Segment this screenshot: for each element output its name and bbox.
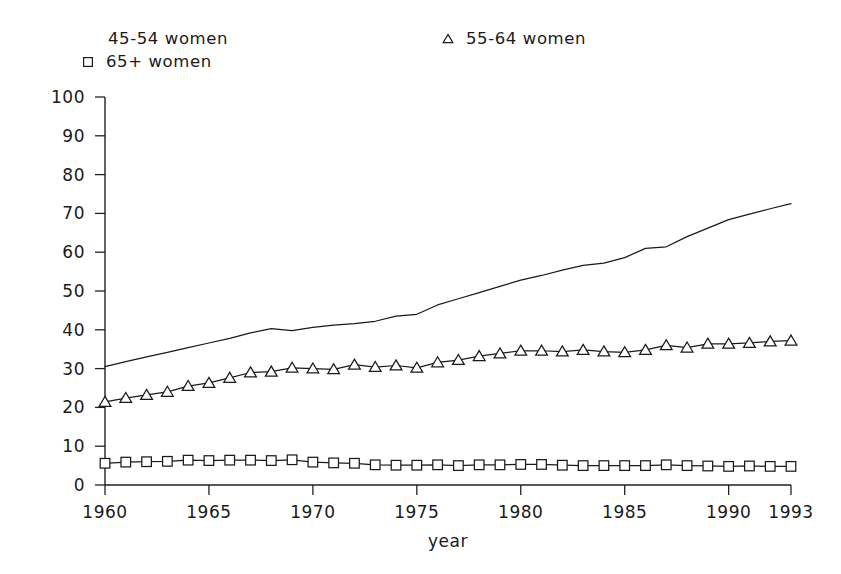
data-point-square <box>599 461 609 471</box>
y-tick-label-40: 40 <box>62 320 85 340</box>
legend-label-0: 45-54 women <box>108 29 228 48</box>
chart-series <box>99 204 797 471</box>
data-point-square <box>204 456 214 466</box>
data-point-square <box>620 461 630 471</box>
data-point-square <box>537 460 547 470</box>
legend-item-2: 65+ women <box>84 52 212 71</box>
chart-axes <box>95 97 791 495</box>
data-point-square <box>225 455 235 465</box>
series-2 <box>100 455 796 471</box>
data-point-square <box>433 460 443 470</box>
axis-spine <box>105 97 791 485</box>
data-point-square <box>474 460 484 470</box>
data-point-square <box>661 460 671 470</box>
y-tick-label-90: 90 <box>62 126 85 146</box>
data-point-square <box>558 460 568 470</box>
data-point-square <box>183 455 193 465</box>
data-point-square <box>745 461 755 471</box>
data-point-triangle <box>349 359 361 369</box>
legend-label-1: 55-64 women <box>466 29 586 48</box>
data-point-square <box>308 457 318 467</box>
y-tick-label-0: 0 <box>74 475 85 495</box>
legend-triangle-icon <box>443 34 453 42</box>
data-point-square <box>391 460 401 470</box>
x-tick-label-1970: 1970 <box>290 502 335 522</box>
data-point-square <box>329 458 339 468</box>
data-point-square <box>287 455 297 465</box>
data-point-square <box>142 457 152 467</box>
line-chart: 45-54 women55-64 women65+ women 01020304… <box>0 0 841 574</box>
x-tick-label-1985: 1985 <box>602 502 647 522</box>
y-tick-label-50: 50 <box>62 281 85 301</box>
x-tick-label-1975: 1975 <box>394 502 439 522</box>
series-line-0 <box>105 204 791 367</box>
chart-axis-labels: 0102030405060708090100196019651970197519… <box>51 87 814 551</box>
data-point-triangle <box>785 335 797 345</box>
x-tick-label-1960: 1960 <box>82 502 127 522</box>
data-point-square <box>703 461 713 471</box>
legend-square-icon <box>84 58 93 67</box>
y-tick-label-30: 30 <box>62 359 85 379</box>
data-point-triangle <box>286 362 298 372</box>
data-point-square <box>246 455 256 465</box>
data-point-square <box>641 461 651 471</box>
chart-container: 45-54 women55-64 women65+ women 01020304… <box>0 0 841 574</box>
data-point-square <box>682 461 692 471</box>
data-point-square <box>516 460 526 470</box>
x-tick-label-1990: 1990 <box>706 502 751 522</box>
legend-item-0: 45-54 women <box>108 29 228 48</box>
x-tick-label-1980: 1980 <box>498 502 543 522</box>
data-point-square <box>370 460 380 470</box>
y-tick-label-20: 20 <box>62 397 85 417</box>
data-point-square <box>495 460 505 470</box>
y-tick-label-70: 70 <box>62 203 85 223</box>
legend-item-1: 55-64 women <box>443 29 586 48</box>
x-tick-label-1965: 1965 <box>186 502 231 522</box>
series-1 <box>99 335 797 406</box>
data-point-square <box>765 462 775 472</box>
data-point-square <box>724 462 734 472</box>
series-0 <box>105 204 791 367</box>
chart-legend: 45-54 women55-64 women65+ women <box>84 29 586 71</box>
y-tick-label-60: 60 <box>62 242 85 262</box>
data-point-square <box>267 456 277 466</box>
data-point-triangle <box>660 340 672 350</box>
y-tick-label-100: 100 <box>51 87 85 107</box>
data-point-square <box>163 457 173 467</box>
data-point-square <box>350 458 360 468</box>
data-point-square <box>786 462 796 472</box>
data-point-square <box>412 460 422 470</box>
x-tick-label-1993: 1993 <box>768 502 813 522</box>
data-point-square <box>100 458 110 468</box>
data-point-square <box>454 461 464 471</box>
x-axis-title: year <box>428 531 468 551</box>
y-tick-label-80: 80 <box>62 165 85 185</box>
data-point-square <box>121 457 131 467</box>
data-point-square <box>578 461 588 471</box>
legend-label-2: 65+ women <box>106 52 212 71</box>
data-point-triangle <box>390 360 402 370</box>
y-tick-label-10: 10 <box>62 436 85 456</box>
data-point-triangle <box>577 344 589 354</box>
